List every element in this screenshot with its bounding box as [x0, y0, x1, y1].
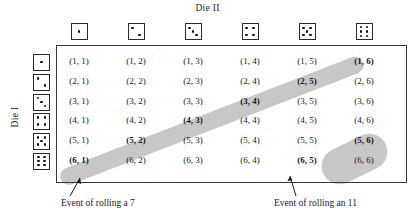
- event-seven-caption: Event of rolling a 7: [61, 198, 135, 208]
- event-eleven-leader-line: [0, 0, 415, 218]
- event-eleven-caption: Event of rolling an 11: [274, 198, 357, 208]
- dice-sample-space-figure: Die II Die I (1, 1)(1, 2)(1, 3)(1, 4)(1,…: [0, 0, 415, 218]
